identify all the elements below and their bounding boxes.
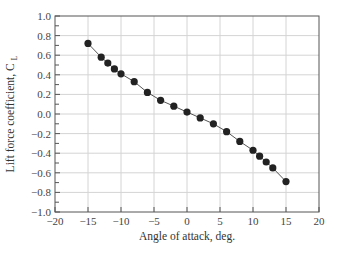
x-tick-label: 0 xyxy=(184,215,190,227)
x-tick-label: −10 xyxy=(112,215,130,227)
y-axis-label-text: Lift force coefficient, C xyxy=(4,63,17,172)
data-point-marker xyxy=(236,138,243,145)
y-tick-label: 0.0 xyxy=(37,108,51,120)
y-tick-label: 0.2 xyxy=(37,88,51,100)
data-point-marker xyxy=(249,147,256,154)
data-point-marker xyxy=(104,59,111,66)
y-axis-tick-labels: −1.0−0.8−0.6−0.4−0.20.00.20.40.60.81.0 xyxy=(31,10,51,218)
x-tick-label: 10 xyxy=(248,215,260,227)
y-tick-label: −0.6 xyxy=(31,167,51,179)
data-point-marker xyxy=(183,108,190,115)
y-tick-label: 0.4 xyxy=(37,69,51,81)
data-point-marker xyxy=(157,97,164,104)
data-point-marker xyxy=(223,128,230,135)
x-tick-label: −5 xyxy=(148,215,160,227)
data-point-marker xyxy=(256,153,263,160)
data-point-marker xyxy=(84,40,91,47)
y-axis-label-subscript: L xyxy=(10,56,19,61)
data-point-marker xyxy=(263,158,270,165)
y-tick-label: 0.8 xyxy=(37,30,51,42)
data-point-marker xyxy=(282,178,289,185)
y-tick-label: −0.8 xyxy=(31,186,51,198)
x-axis-label: Angle of attack, deg. xyxy=(139,230,235,243)
data-point-marker xyxy=(269,164,276,171)
data-point-marker xyxy=(210,120,217,127)
data-point-marker xyxy=(144,89,151,96)
data-point-marker xyxy=(131,78,138,85)
x-tick-label: 15 xyxy=(281,215,293,227)
y-axis-label: Lift force coefficient, C L xyxy=(4,56,19,173)
data-point-marker xyxy=(111,65,118,72)
x-tick-label: 5 xyxy=(217,215,223,227)
y-tick-label: 0.6 xyxy=(37,49,51,61)
data-point-marker xyxy=(170,103,177,110)
y-tick-label: −0.2 xyxy=(31,128,51,140)
lift-coefficient-chart: −20−15−10−505101520 −1.0−0.8−0.6−0.4−0.2… xyxy=(0,0,339,253)
data-point-marker xyxy=(98,54,105,61)
data-point-marker xyxy=(117,70,124,77)
x-tick-label: 20 xyxy=(314,215,326,227)
x-tick-label: −15 xyxy=(79,215,97,227)
data-point-marker xyxy=(197,114,204,121)
y-tick-label: 1.0 xyxy=(37,10,51,22)
y-tick-label: −1.0 xyxy=(31,206,51,218)
y-tick-label: −0.4 xyxy=(31,147,51,159)
x-axis-tick-labels: −20−15−10−505101520 xyxy=(46,215,325,227)
